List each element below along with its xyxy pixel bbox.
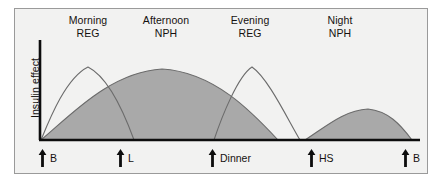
heading-line1: Night (295, 14, 385, 27)
heading-line2: REG (43, 27, 133, 40)
heading-line1: Evening (205, 14, 295, 27)
y-axis-label: Insulin effect (29, 38, 41, 138)
up-arrow-icon (116, 149, 125, 167)
event-marker-label: HS (319, 152, 334, 164)
heading-line1: Afternoon (121, 14, 211, 27)
event-marker-label: B (50, 152, 57, 164)
event-marker-label: Dinner (220, 152, 251, 164)
event-marker-label: B (413, 152, 420, 164)
heading-line1: Morning (43, 14, 133, 27)
heading-line2: REG (205, 27, 295, 40)
event-marker-label: L (128, 152, 134, 164)
heading-afternoon-nph: Afternoon NPH (121, 14, 211, 40)
heading-evening-reg: Evening REG (205, 14, 295, 40)
heading-line2: NPH (295, 27, 385, 40)
up-arrow-icon (307, 149, 316, 167)
up-arrow-icon (401, 149, 410, 167)
up-arrow-icon (208, 149, 217, 167)
up-arrow-icon (38, 149, 47, 167)
curve-night-nph-fill (305, 109, 412, 140)
heading-line2: NPH (121, 27, 211, 40)
heading-morning-reg: Morning REG (43, 14, 133, 40)
insulin-effect-figure: Insulin effect Morning REG Afternoon NPH… (0, 0, 444, 184)
heading-night-nph: Night NPH (295, 14, 385, 40)
